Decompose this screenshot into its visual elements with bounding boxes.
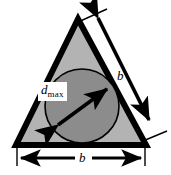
extension-line-base-right [143,131,167,141]
figure-container: dmax b b [0,0,171,175]
label-d-max-subscript: max [48,89,64,99]
triangle-circle-diagram [0,0,171,175]
label-b-bottom: b [79,151,86,164]
label-b-right: b [117,69,124,82]
label-d-max: dmax [38,82,67,101]
